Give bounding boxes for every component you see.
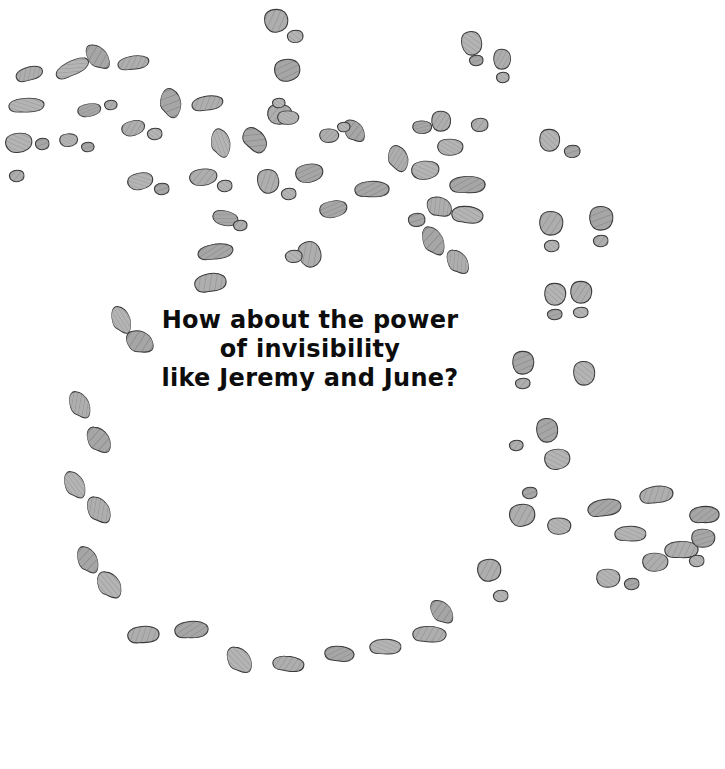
footprint-shoe-print [239, 125, 271, 155]
footprint-bare-foot-heel [105, 100, 117, 109]
footprint-bare-foot-heel [148, 128, 163, 139]
footprint-shoe-print [116, 51, 150, 75]
footprint-bare-foot-heel [234, 220, 248, 230]
footprint-bare-foot-heel [471, 118, 488, 131]
footprint-shoe-print [173, 616, 210, 643]
footprint-bare-foot-ball [536, 418, 559, 443]
footprint-bare-foot-ball [543, 448, 571, 471]
footprint-bare-foot-heel [285, 250, 302, 262]
footprint-bare-foot-ball [460, 30, 484, 57]
footprint-shoe-print [386, 144, 411, 172]
footprint-bare-foot-ball [278, 111, 299, 125]
footprint-bare-foot-ball [548, 518, 571, 534]
footprint-bare-foot-ball [540, 211, 563, 235]
footprint-bare-foot-ball [494, 49, 511, 69]
footprint-bare-foot-heel [338, 122, 350, 131]
footprint-bare-foot-ball [643, 553, 668, 571]
footprint-bare-foot-ball [692, 529, 715, 547]
footprint-bare-foot-heel [523, 487, 538, 498]
footprint-bare-foot-heel [218, 180, 233, 191]
footprint-shoe-print [83, 40, 111, 73]
footprint-bare-foot-ball [411, 160, 440, 181]
footprint-shoe-print [96, 570, 122, 601]
footprint-bare-foot-heel [594, 235, 609, 246]
footprint-shoe-print [412, 623, 447, 646]
footprint-bare-foot-heel [10, 170, 25, 181]
footprint-shoe-print [445, 247, 470, 277]
footprint-shoe-print [68, 390, 91, 420]
caption-line-3: like Jeremy and June? [0, 364, 620, 393]
footprint-bare-foot-heel [82, 142, 94, 151]
footprint-shoe-print [586, 493, 623, 522]
footprint-bare-foot-ball [120, 118, 146, 138]
footprint-bare-foot-ball [273, 58, 301, 83]
footprint-bare-foot-ball [476, 558, 502, 583]
footprint-shoe-print [76, 545, 99, 575]
footprint-bare-foot-heel [510, 440, 524, 450]
footprint-bare-foot-heel [408, 213, 425, 226]
footprint-bare-foot-ball [545, 283, 566, 305]
footprint-bare-foot-heel [497, 72, 509, 82]
footprint-shoe-print [54, 52, 92, 85]
footprint-bare-foot-ball [126, 171, 154, 192]
footprint-bare-foot-ball [320, 129, 339, 143]
footprint-bare-foot-ball [571, 281, 592, 303]
footprint-bare-foot-ball [256, 167, 282, 194]
caption-text-block: How about the power of invisibility like… [0, 306, 620, 393]
footprint-bare-foot-ball [59, 133, 78, 147]
footprint-shoe-print [324, 644, 355, 664]
footprint-bare-foot-ball [189, 167, 218, 187]
footprint-bare-foot-ball [540, 129, 560, 151]
footprint-shoe-print [428, 597, 455, 628]
caption-line-1: How about the power [0, 306, 620, 335]
footprint-shoe-print [192, 267, 229, 298]
footprint-bare-foot-ball [263, 8, 290, 34]
footprint-shoe-print [272, 654, 304, 674]
footprint-shoe-print [225, 644, 253, 676]
footprint-shoe-print [448, 172, 486, 197]
footprint-shoe-print [157, 87, 185, 119]
footprint-bare-foot-heel [282, 188, 297, 199]
footprint-bare-foot-ball [413, 121, 432, 134]
footprint-shoe-print [126, 621, 161, 648]
footprint-shoe-print [14, 61, 45, 87]
footprint-shoe-print [451, 204, 484, 227]
footprint-shoe-print [614, 523, 648, 546]
footprint-shoe-print [688, 502, 721, 528]
footprint-bare-foot-ball [432, 111, 451, 131]
footprint-bare-foot-heel [545, 240, 560, 251]
footprint-bare-foot-heel [36, 138, 50, 149]
footprint-bare-foot-ball [508, 502, 537, 528]
footprint-bare-foot-heel [470, 55, 484, 65]
footprint-bare-foot-ball [597, 569, 620, 587]
footprint-shoe-print [425, 193, 453, 221]
caption-line-2: of invisibility [0, 335, 620, 364]
footprint-bare-foot-ball [318, 199, 348, 220]
footprint-shoe-print [63, 470, 86, 500]
footprint-bare-foot-heel [273, 98, 285, 107]
footprint-bare-foot-heel [155, 183, 170, 194]
footprint-bare-foot-heel [625, 578, 640, 589]
footprint-shoe-print [196, 239, 234, 266]
footprint-bare-foot-ball [4, 131, 33, 154]
footprint-shoe-print [209, 128, 232, 158]
footprint-shoe-print [354, 177, 391, 201]
footprint-shoe-print [638, 481, 675, 510]
footprint-shoe-print [421, 225, 445, 257]
footprint-shoe-print [8, 94, 45, 117]
footprint-shoe-print [85, 424, 112, 456]
footprint-bare-foot-heel [564, 145, 580, 157]
footprint-bare-foot-ball [438, 139, 463, 155]
footprint-bare-foot-heel [287, 30, 303, 42]
footprint-bare-foot-ball [77, 102, 102, 119]
footprint-shoe-print [86, 494, 112, 525]
illustration-page: How about the power of invisibility like… [0, 0, 725, 769]
footprint-shoe-print [369, 636, 403, 659]
footprint-shoe-print [190, 91, 224, 116]
footprint-bare-foot-heel [690, 555, 705, 566]
footprint-bare-foot-ball [294, 162, 324, 185]
footprint-bare-foot-ball [590, 206, 613, 230]
footprint-bare-foot-heel [494, 590, 509, 601]
